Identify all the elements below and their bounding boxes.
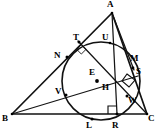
right-angle-at-R-icon	[108, 106, 117, 114]
label-T: T	[73, 33, 79, 42]
point-V-dot	[65, 94, 68, 97]
vertex-B-dot	[11, 113, 14, 116]
label-H: H	[102, 83, 109, 92]
label-N: N	[54, 51, 61, 60]
label-A: A	[107, 0, 114, 9]
altitude-A-to-R	[112, 13, 117, 114]
label-C: C	[148, 114, 155, 123]
vertex-A-dot	[111, 12, 114, 15]
point-M-dot	[132, 67, 135, 70]
point-N-dot	[66, 56, 69, 59]
geometry-figure: A B C T U N M S E H V W L R	[0, 0, 160, 139]
point-R-dot	[116, 113, 119, 116]
label-S: S	[136, 67, 141, 76]
label-V: V	[55, 87, 62, 96]
label-M: M	[130, 54, 139, 63]
label-L: L	[86, 121, 92, 130]
point-E-dot	[95, 79, 99, 83]
label-B: B	[2, 114, 8, 123]
label-W: W	[128, 96, 137, 105]
label-U: U	[102, 33, 109, 42]
label-E: E	[89, 68, 95, 77]
point-U-dot	[109, 42, 112, 45]
label-R: R	[112, 121, 119, 130]
